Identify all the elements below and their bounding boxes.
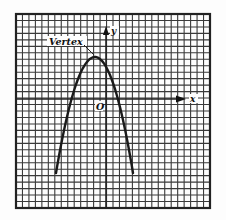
- parabola-graph: Vertex y x O: [0, 0, 226, 220]
- vertex-label: Vertex: [49, 36, 83, 47]
- y-axis-label: y: [110, 26, 117, 36]
- diagram-stage: Vertex y x O: [0, 0, 226, 220]
- graph-paper-grid: [16, 14, 210, 208]
- x-axis-label: x: [189, 94, 196, 104]
- origin-label: O: [96, 101, 105, 112]
